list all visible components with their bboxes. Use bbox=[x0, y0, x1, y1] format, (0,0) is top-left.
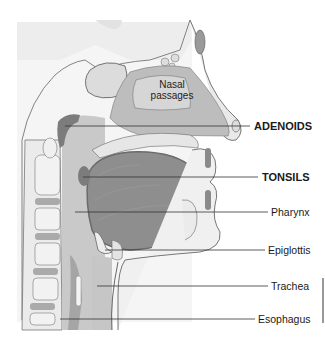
label-adenoids: ADENOIDS bbox=[254, 120, 312, 132]
cropped-text-edge bbox=[322, 278, 324, 323]
anatomy-diagram: Nasal passages ADENOIDS TONSILS Pharynx … bbox=[0, 0, 325, 345]
nasal-label-line2: passages bbox=[148, 90, 196, 101]
label-tonsils: TONSILS bbox=[262, 171, 309, 183]
nasal-label-line1: Nasal bbox=[148, 79, 196, 90]
tonsil-tissue bbox=[78, 166, 90, 186]
nasal-passages-label: Nasal passages bbox=[148, 79, 196, 101]
label-trachea: Trachea bbox=[271, 280, 309, 292]
label-esophagus: Esophagus bbox=[258, 313, 311, 325]
label-epiglottis: Epiglottis bbox=[268, 244, 311, 256]
label-pharynx: Pharynx bbox=[271, 206, 310, 218]
